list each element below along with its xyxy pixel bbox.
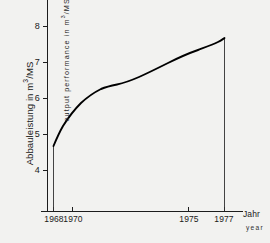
data-curve-abbauleistung — [54, 38, 225, 146]
x-tick-label-1975: 1975 — [172, 214, 206, 224]
chart-plot-area — [0, 0, 270, 243]
chart-figure: 8 7 6 5 4 1968 1970 1975 1977 Abbauleist… — [0, 0, 270, 243]
y-axis-label-german: Abbauleistung in m3/MS — [24, 39, 35, 189]
x-axis-label-english: year — [246, 224, 264, 231]
x-axis-label-german: Jahr — [243, 209, 260, 219]
y-tick-label-8: 8 — [24, 21, 40, 31]
x-tick-label-1970: 1970 — [56, 214, 90, 224]
y-axis-label-english: output performance in m3/MS — [62, 12, 71, 122]
x-tick-label-1977: 1977 — [207, 214, 241, 224]
